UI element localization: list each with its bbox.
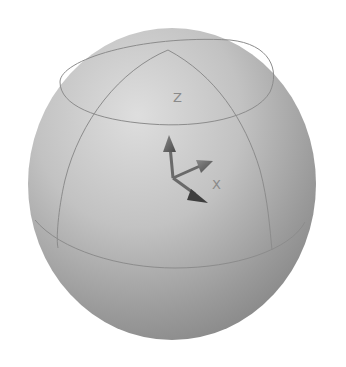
sphere[interactable] bbox=[28, 28, 316, 340]
scene-canvas: Z X bbox=[0, 0, 346, 367]
z-axis-label: Z bbox=[173, 90, 182, 105]
x-axis-label: X bbox=[212, 177, 221, 192]
3d-viewport[interactable]: Z X bbox=[0, 0, 346, 367]
